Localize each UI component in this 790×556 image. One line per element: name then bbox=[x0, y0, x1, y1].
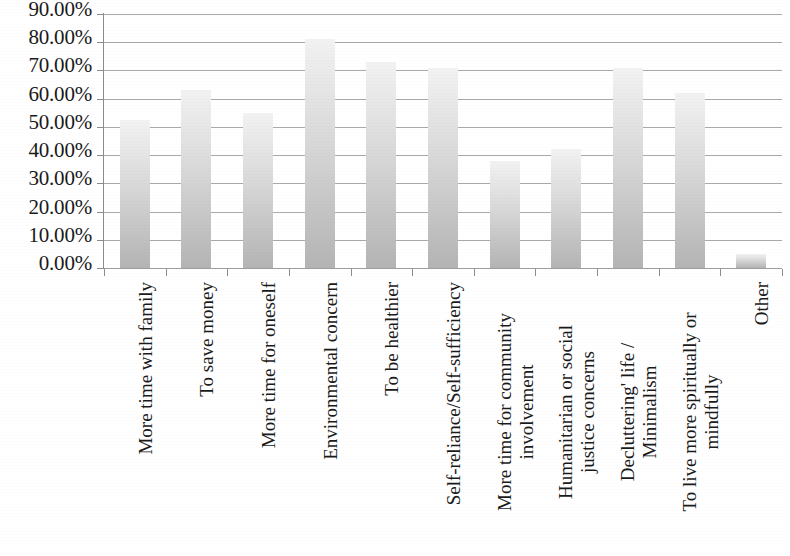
x-axis-label-slot: More time with family bbox=[104, 276, 166, 556]
x-axis-tick-mark bbox=[166, 269, 167, 276]
x-axis-label-slot: Other bbox=[720, 276, 782, 556]
bar-slot bbox=[720, 14, 782, 268]
x-axis-label-slot: Humanitarian or socialjustice concerns bbox=[535, 276, 597, 556]
x-axis-tick-label: Other bbox=[751, 282, 773, 325]
x-axis-tick-label-line: To live more spiritually or bbox=[679, 312, 700, 511]
x-axis-label-slot: Decluttering' life /Minimalism bbox=[597, 276, 659, 556]
y-axis-tick-label: 0.00% bbox=[0, 253, 92, 274]
x-axis-label-slot: To live more spiritually ormindfully bbox=[659, 276, 721, 556]
y-axis-tick-mark bbox=[97, 42, 104, 43]
bar[interactable] bbox=[675, 93, 705, 268]
x-axis-label-slot: More time for communityinvolvement bbox=[474, 276, 536, 556]
y-axis-tick-mark bbox=[97, 240, 104, 241]
x-axis-tick-label: Humanitarian or socialjustice concerns bbox=[555, 282, 599, 542]
y-axis-tick-label: 70.00% bbox=[0, 55, 92, 76]
x-axis-tick-label: More time with family bbox=[135, 282, 157, 455]
bar-slot bbox=[412, 14, 474, 268]
x-axis-tick-label: Environmental concern bbox=[320, 282, 342, 460]
y-axis-tick-label: 90.00% bbox=[0, 0, 92, 20]
x-axis: More time with familyTo save moneyMore t… bbox=[104, 276, 782, 556]
x-axis-label-slot: Self-reliance/Self-sufficiency bbox=[412, 276, 474, 556]
x-axis-tick-label-line: mindfully bbox=[701, 282, 723, 542]
x-axis-tick-mark bbox=[535, 269, 536, 276]
y-axis-tick-mark bbox=[97, 127, 104, 128]
axis-baseline bbox=[104, 268, 782, 269]
x-axis-tick-label-line: Decluttering' life / bbox=[617, 343, 638, 481]
x-axis-tick-label: More time for communityinvolvement bbox=[494, 282, 538, 542]
bar[interactable] bbox=[181, 90, 211, 268]
x-axis-tick-label: Decluttering' life /Minimalism bbox=[617, 282, 661, 542]
y-axis-tick-mark bbox=[97, 99, 104, 100]
x-axis-tick-mark bbox=[289, 269, 290, 276]
y-axis-tick-mark bbox=[97, 70, 104, 71]
bar-slot bbox=[535, 14, 597, 268]
x-axis-tick-label: To live more spiritually ormindfully bbox=[679, 282, 723, 542]
x-axis-label-slot: To save money bbox=[166, 276, 228, 556]
bar-slot bbox=[227, 14, 289, 268]
bar-slot bbox=[289, 14, 351, 268]
bar[interactable] bbox=[305, 39, 335, 268]
x-axis-label-slot: To be healthier bbox=[351, 276, 413, 556]
bar[interactable] bbox=[366, 62, 396, 268]
bar[interactable] bbox=[243, 113, 273, 268]
x-axis-label-slot: Environmental concern bbox=[289, 276, 351, 556]
bar[interactable] bbox=[428, 68, 458, 268]
bars-group bbox=[104, 14, 782, 268]
bar-slot bbox=[474, 14, 536, 268]
y-axis-tick-label: 10.00% bbox=[0, 225, 92, 246]
x-axis-tick-mark bbox=[227, 269, 228, 276]
y-axis-tick-label: 30.00% bbox=[0, 168, 92, 189]
x-axis-tick-label: To save money bbox=[196, 282, 218, 397]
x-axis-tick-mark bbox=[474, 269, 475, 276]
y-axis-tick-mark bbox=[97, 268, 104, 269]
bar[interactable] bbox=[490, 161, 520, 268]
y-axis-tick-mark bbox=[97, 14, 104, 15]
x-axis-tick-mark bbox=[412, 269, 413, 276]
x-axis-tick-label-line: Minimalism bbox=[639, 282, 661, 542]
y-axis-tick-label: 20.00% bbox=[0, 197, 92, 218]
bar-chart: 90.00%80.00%70.00%60.00%50.00%40.00%30.0… bbox=[0, 0, 790, 556]
x-axis-tick-label-line: Humanitarian or social bbox=[555, 325, 576, 499]
bar[interactable] bbox=[551, 149, 581, 268]
x-axis-tick-label-line: More time for community bbox=[494, 313, 515, 511]
bar-slot bbox=[166, 14, 228, 268]
y-axis: 90.00%80.00%70.00%60.00%50.00%40.00%30.0… bbox=[0, 0, 96, 290]
x-axis-tick-label: Self-reliance/Self-sufficiency bbox=[443, 282, 465, 505]
bar-slot bbox=[597, 14, 659, 268]
x-axis-tick-label: More time for oneself bbox=[258, 282, 280, 448]
y-axis-tick-mark bbox=[97, 212, 104, 213]
bar-slot bbox=[104, 14, 166, 268]
plot-area bbox=[104, 14, 782, 268]
bar[interactable] bbox=[613, 68, 643, 268]
y-axis-tick-label: 60.00% bbox=[0, 84, 92, 105]
x-axis-tick-mark bbox=[351, 269, 352, 276]
bar[interactable] bbox=[120, 120, 150, 268]
y-axis-tick-mark bbox=[97, 155, 104, 156]
x-axis-tick-label: To be healthier bbox=[381, 282, 403, 396]
y-axis-tick-label: 80.00% bbox=[0, 27, 92, 48]
x-axis-tick-mark bbox=[104, 269, 105, 276]
x-axis-tick-label-line: involvement bbox=[516, 282, 538, 542]
y-axis-tick-label: 40.00% bbox=[0, 140, 92, 161]
bar-slot bbox=[659, 14, 721, 268]
y-axis-tick-label: 50.00% bbox=[0, 112, 92, 133]
x-axis-tick-mark bbox=[782, 269, 783, 276]
bar[interactable] bbox=[736, 254, 766, 268]
y-axis-tick-mark bbox=[97, 183, 104, 184]
bar-slot bbox=[351, 14, 413, 268]
x-axis-label-slot: More time for oneself bbox=[227, 276, 289, 556]
x-axis-tick-mark bbox=[720, 269, 721, 276]
x-axis-tick-mark bbox=[659, 269, 660, 276]
x-axis-tick-label-line: justice concerns bbox=[577, 282, 599, 542]
x-axis-tick-mark bbox=[597, 269, 598, 276]
